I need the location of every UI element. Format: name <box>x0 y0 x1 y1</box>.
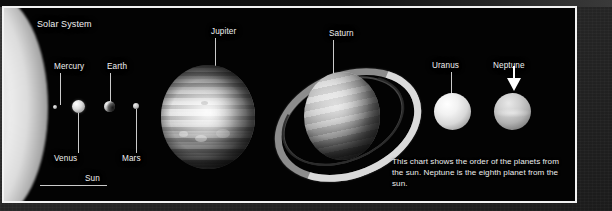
earth-terminator-shadow <box>104 101 115 112</box>
space-background: Solar System Mercury Venus Earth Mars Su… <box>4 8 575 201</box>
figure-page: Solar System Mercury Venus Earth Mars Su… <box>0 0 612 211</box>
planet-uranus <box>434 93 471 130</box>
label-mercury: Mercury <box>54 62 84 72</box>
jupiter-limb-shading <box>161 65 255 169</box>
neptune-pointer-arrow-icon <box>507 66 521 92</box>
leader-line-venus <box>78 113 79 153</box>
planet-venus <box>72 100 85 113</box>
page-title: Solar System <box>37 19 92 29</box>
label-venus: Venus <box>54 154 77 164</box>
leader-line-sun <box>40 185 107 186</box>
arrow-head <box>507 78 521 91</box>
chart-frame: Solar System Mercury Venus Earth Mars Su… <box>2 6 577 203</box>
label-earth: Earth <box>107 62 127 72</box>
neptune-cloud-band <box>494 93 531 130</box>
leader-line-earth <box>110 73 111 102</box>
label-jupiter: Jupiter <box>211 27 236 37</box>
leader-line-mars <box>136 109 137 153</box>
sun-body <box>4 8 48 201</box>
chart-caption: This chart shows the order of the planet… <box>392 156 568 190</box>
planet-mercury <box>53 105 57 109</box>
leader-line-mercury <box>60 73 61 105</box>
label-uranus: Uranus <box>432 61 459 71</box>
label-sun: Sun <box>85 174 100 184</box>
label-mars: Mars <box>122 154 141 164</box>
